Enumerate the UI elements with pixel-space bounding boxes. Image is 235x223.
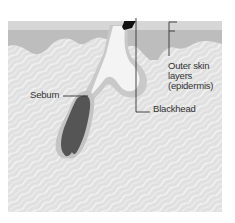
outer-skin-label-line3: (epidermis) (168, 81, 213, 91)
sebum-label: Sebum (30, 90, 59, 100)
outer-skin-layers-label: Outer skin layers (epidermis) (168, 61, 213, 91)
skin-cross-section-illustration (0, 0, 235, 223)
blackhead-diagram: Outer skin layers (epidermis) Sebum Blac… (0, 0, 235, 223)
blackhead-label: Blackhead (153, 104, 196, 114)
